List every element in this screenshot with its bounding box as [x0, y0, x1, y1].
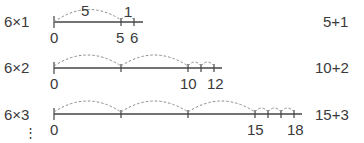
row-6x1: 6×1 5 1 0 5 6 5+1: [4, 2, 348, 46]
tick-label-6: 6: [130, 29, 138, 46]
tick-label-5: 5: [116, 29, 124, 46]
result-label: 10+2: [315, 59, 349, 76]
expression-label: 6×2: [4, 59, 29, 76]
number-line-diagram: 6×1 5 1 0 5 6 5+1 6×2 0 10 12 10+2 6×3: [0, 0, 364, 143]
row-6x2: 6×2 0 10 12 10+2: [4, 55, 349, 92]
tick-label-0: 0: [50, 121, 58, 138]
tick-label-15: 15: [247, 121, 264, 138]
jump-arc: [121, 55, 188, 66]
result-label: 5+1: [323, 13, 348, 30]
tick-label-10: 10: [180, 75, 197, 92]
jump-arc-small: [281, 108, 294, 112]
expression-label: 6×1: [4, 13, 29, 30]
jump-arc-small: [268, 108, 281, 112]
jump-arc: [188, 101, 255, 112]
jump-arc-small: [188, 62, 201, 66]
jump-arc: [121, 101, 188, 112]
row-6x3: 6×3 0 15 18 15+3 ⋮: [4, 101, 349, 140]
jump-arc: [54, 55, 121, 66]
arc-label-1: 1: [124, 3, 132, 20]
jump-arc: [54, 101, 121, 112]
jump-arc-small: [201, 62, 214, 66]
tick-label-18: 18: [287, 121, 304, 138]
result-label: 15+3: [315, 106, 349, 123]
expression-label: 6×3: [4, 106, 29, 123]
tick-label-0: 0: [50, 29, 58, 46]
tick-label-12: 12: [207, 75, 224, 92]
arc-label-5: 5: [81, 2, 89, 19]
tick-label-0: 0: [50, 75, 58, 92]
continuation-dots: ⋮: [24, 125, 37, 140]
jump-arc-small: [255, 108, 268, 112]
